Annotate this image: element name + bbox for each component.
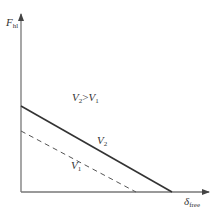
v2-label-sub: 2	[104, 140, 108, 148]
v1-label: V1	[71, 160, 81, 173]
v1-label-sub: 1	[78, 165, 82, 173]
diagram-canvas	[0, 0, 215, 215]
condition-label: V2>V1	[72, 92, 99, 105]
y-axis-label-main: F	[6, 16, 13, 28]
v1-label-main: V	[71, 159, 78, 171]
v2-label-main: V	[97, 134, 104, 146]
x-axis-label: δfree	[184, 196, 200, 209]
x-axis-label-sub: free	[189, 201, 200, 209]
y-axis-label-sub: hl	[13, 22, 18, 30]
v2-label: V2	[97, 135, 107, 148]
v2-line	[21, 106, 172, 192]
condition-left: V	[72, 91, 79, 103]
condition-right-sub: 1	[95, 97, 99, 105]
y-axis-label: Fhl	[6, 17, 18, 30]
